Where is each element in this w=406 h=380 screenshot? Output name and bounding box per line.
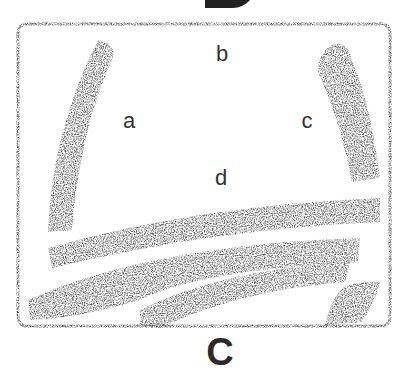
region-label-d: d — [215, 167, 227, 189]
diagram-canvas — [0, 0, 406, 380]
region-label-c: c — [302, 110, 313, 132]
region-label-b: b — [216, 43, 228, 65]
bottom-label: C — [206, 333, 233, 371]
bottom-right-patch — [325, 282, 380, 325]
right-arc-stroke — [318, 44, 380, 182]
region-label-a: a — [123, 110, 135, 132]
left-arc-stroke — [48, 40, 113, 232]
